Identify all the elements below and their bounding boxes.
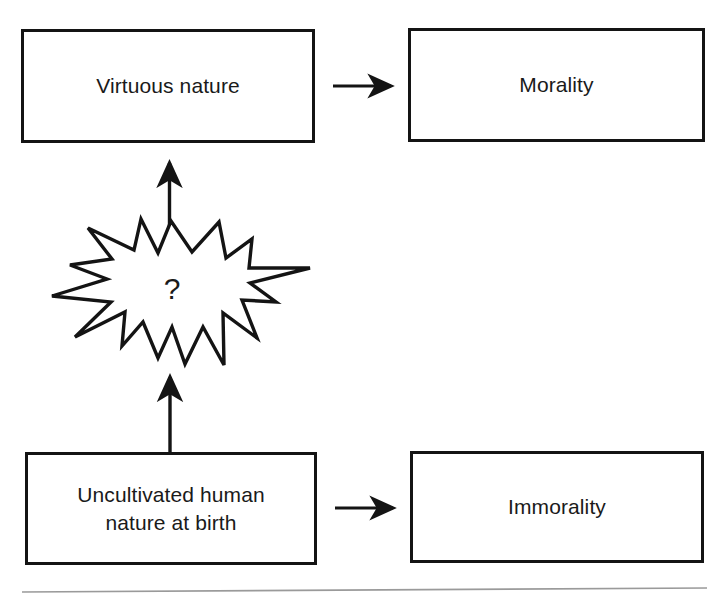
node-morality-label: Morality (509, 71, 603, 99)
node-virtuous-nature: Virtuous nature (21, 29, 315, 143)
node-morality: Morality (408, 28, 705, 142)
node-immorality-label: Immorality (498, 493, 616, 521)
footer-rule (22, 588, 707, 592)
node-uncultivated-human-nature: Uncultivated human nature at birth (25, 452, 317, 565)
node-immorality: Immorality (410, 451, 704, 563)
node-virtuous-nature-label: Virtuous nature (86, 72, 250, 100)
starburst-shape (52, 219, 310, 365)
diagram-canvas: Virtuous nature Morality Uncultivated hu… (0, 0, 728, 610)
node-uncultivated-human-nature-label: Uncultivated human nature at birth (67, 481, 274, 536)
